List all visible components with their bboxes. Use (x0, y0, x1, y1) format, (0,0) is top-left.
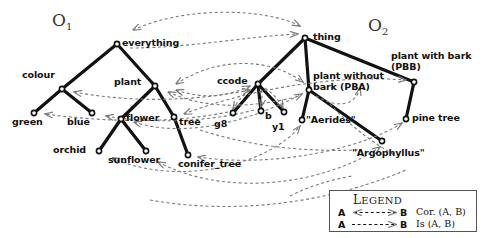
legend-row-is: A B Is (A, B) (338, 218, 474, 231)
legend-desc-is: Is (A, B) (416, 218, 455, 229)
node-label-aerides: "Aerides" (306, 115, 356, 125)
mapping-cor-everything-thing (133, 12, 300, 30)
node-marker-flower[interactable] (118, 116, 123, 121)
mapping-edges-layer (45, 12, 406, 206)
node-marker-y1[interactable] (281, 109, 286, 114)
node-marker-thing[interactable] (302, 35, 307, 40)
ontology-label-o1: O1 (52, 10, 72, 32)
edge-thing-ccode (258, 38, 305, 84)
node-marker-g8[interactable] (230, 110, 235, 115)
legend-desc-cor: Cor. (A, B) (416, 206, 466, 217)
node-marker-argophyllus[interactable] (379, 138, 384, 143)
mapping-cor-extra-mid-sweep (200, 130, 360, 150)
node-label-flower: flower (126, 113, 159, 123)
node-label-ccode: ccode (217, 76, 248, 86)
legend-endpoint-b-is: B (400, 219, 407, 230)
node-label-orchid: orchid (53, 145, 86, 155)
node-marker-pine_tree[interactable] (403, 116, 408, 121)
node-label-colour: colour (22, 70, 55, 80)
node-label-green: green (12, 117, 43, 127)
edge-flower-orchid (99, 119, 121, 151)
node-label-pbb: plant with bark (PBB) (391, 50, 475, 72)
node-marker-green[interactable] (31, 110, 36, 115)
legend-endpoint-b-cor: B (400, 207, 407, 218)
node-markers-layer (31, 35, 416, 157)
node-label-pba: plant without bark (PBA) (313, 70, 393, 92)
edge-colour-blue (62, 89, 92, 113)
node-label-sunflower: sunflower (108, 155, 160, 165)
node-label-plant: plant (114, 77, 141, 87)
node-label-tree: tree (179, 117, 201, 127)
ontology-alignment-figure: O1 O2 everything colour plant green blue… (0, 0, 486, 238)
node-marker-everything[interactable] (114, 41, 119, 46)
node-marker-pba[interactable] (306, 87, 311, 92)
node-label-conifer-tree: conifer_tree (178, 159, 241, 169)
node-label-everything: everything (122, 38, 179, 48)
node-label-thing: thing (313, 32, 341, 42)
node-marker-colour[interactable] (59, 86, 64, 91)
node-label-y1: y1 (272, 122, 285, 132)
legend-arrow-is-icon (348, 218, 402, 231)
node-marker-conifer_tree[interactable] (185, 152, 190, 157)
node-marker-ccode[interactable] (255, 81, 260, 86)
edge-everything-colour (62, 44, 117, 89)
node-marker-blue[interactable] (89, 110, 94, 115)
legend-title: LEGEND (353, 193, 402, 207)
node-marker-b[interactable] (258, 108, 263, 113)
ontology-label-o2: O2 (368, 15, 388, 37)
node-label-argophyllus: "Argophyllus" (352, 148, 425, 158)
legend-endpoint-a-cor: A (338, 207, 345, 218)
node-label-pine-tree: pine tree (412, 113, 460, 123)
node-marker-tree[interactable] (171, 114, 176, 119)
node-label-blue: blue (67, 117, 90, 127)
mapping-is-ccode-y1 (265, 88, 283, 108)
edge-thing-pba (305, 38, 309, 90)
node-label-g8: g8 (214, 119, 227, 129)
legend-box: LEGEND A B Cor. (A, B) A B Is (A, B) (329, 190, 477, 232)
mapping-cor-plant-ccode (176, 86, 250, 96)
node-marker-orchid[interactable] (96, 148, 101, 153)
edge-ccode-g8 (233, 84, 258, 113)
edge-colour-green (34, 89, 62, 113)
node-marker-plant[interactable] (152, 83, 157, 88)
node-marker-pbb[interactable] (411, 79, 416, 84)
node-marker-sunflower[interactable] (143, 148, 148, 153)
legend-endpoint-a-is: A (338, 219, 345, 230)
node-marker-aerides[interactable] (299, 117, 304, 122)
node-label-b: b (265, 111, 272, 121)
